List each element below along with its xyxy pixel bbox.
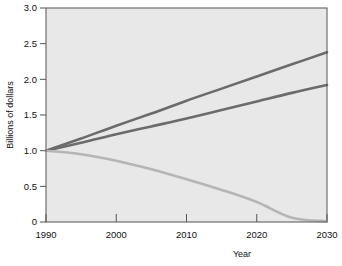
x-tick-label: 2030 [316,229,337,240]
y-tick-label: 2.0 [24,74,37,85]
x-tick-label: 2010 [176,229,197,240]
x-tick-label: 2000 [106,229,127,240]
y-tick-label: 3.0 [24,2,37,13]
y-tick-label: 2.5 [24,38,37,49]
x-axis-title: Year [233,249,251,259]
x-tick-label: 1990 [35,229,56,240]
y-tick-label: 1.5 [24,109,37,120]
y-axis-title: Billions of dollars [5,81,15,149]
y-tick-label: 0 [32,216,37,227]
plot-area-background [46,8,327,222]
line-chart: 00.51.01.52.02.53.0 19902000201020202030… [0,0,342,266]
x-tick-label: 2020 [246,229,267,240]
y-tick-label: 1.0 [24,145,37,156]
y-tick-label: 0.5 [24,181,37,192]
